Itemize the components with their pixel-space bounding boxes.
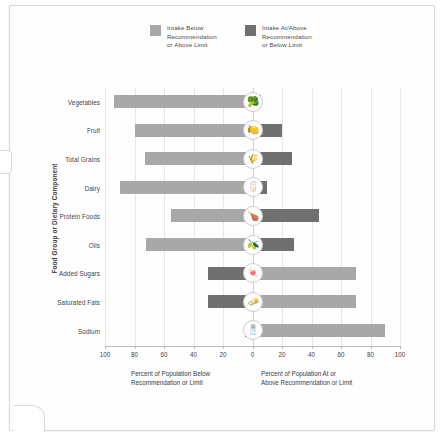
chart-row: 🧂	[105, 317, 400, 346]
x-axis-tick	[400, 346, 401, 349]
bar-below-recommendation	[135, 124, 253, 137]
chart-row: 🫒	[105, 231, 400, 260]
chart-legend: Intake Below Recommendation or Above Lim…	[150, 24, 395, 66]
x-axis-caption-right: Percent of Population At or Above Recomm…	[261, 369, 396, 387]
x-axis-caption-left: Percent of Population Below Recommendati…	[131, 369, 251, 387]
bar-below-recommendation	[171, 209, 252, 222]
x-axis-tick-label: 0	[238, 351, 268, 358]
x-axis-tick-label: 60	[149, 351, 179, 358]
x-axis-tick	[223, 346, 224, 349]
bar-at-above-recommendation	[253, 267, 356, 280]
x-axis-tick	[341, 346, 342, 349]
x-axis-tick	[194, 346, 195, 349]
grains-icon: 🌾	[243, 149, 263, 169]
category-label: Fruit	[30, 117, 100, 146]
legend-label: Intake Below Recommendation or Above Lim…	[167, 24, 217, 50]
chart-row: 🍋	[105, 117, 400, 146]
category-label: Oils	[30, 231, 100, 260]
x-axis-tick	[105, 346, 106, 349]
chart-row: 🍬	[105, 260, 400, 289]
chart-row: 🥦	[105, 88, 400, 117]
category-label-column: VegetablesFruitTotal GrainsDairyProtein …	[30, 88, 100, 346]
legend-swatch-at-above	[245, 25, 256, 36]
plot-area: 🥦🍋🌾🥛🍗🫒🍬🧈🧂	[105, 88, 400, 346]
x-axis-tick	[135, 346, 136, 349]
oils-icon: 🫒	[243, 235, 263, 255]
legend-item: Intake At/Above Recommendation or Below …	[245, 24, 312, 66]
dairy-icon: 🥛	[243, 177, 263, 197]
gridline	[400, 88, 401, 346]
chart-row: 🥛	[105, 174, 400, 203]
legend-label: Intake At/Above Recommendation or Below …	[262, 24, 312, 50]
sodium-icon: 🧂	[243, 320, 263, 340]
x-axis-tick-label: 100	[90, 351, 120, 358]
chart-row: 🧈	[105, 288, 400, 317]
x-axis-tick	[253, 346, 254, 349]
diverging-bar-chart: Intake Below Recommendation or Above Lim…	[0, 0, 444, 437]
chart-row: 🍗	[105, 202, 400, 231]
bar-below-recommendation	[120, 181, 253, 194]
x-axis-tick	[282, 346, 283, 349]
protein-foods-icon: 🍗	[243, 206, 263, 226]
x-axis-tick-label: 40	[297, 351, 327, 358]
broccoli-icon: 🥦	[243, 92, 263, 112]
bar-below-recommendation	[114, 95, 253, 108]
x-axis-tick-label: 80	[356, 351, 386, 358]
legend-swatch-below	[150, 25, 161, 36]
added-sugars-icon: 🍬	[243, 263, 263, 283]
bar-below-recommendation	[145, 152, 253, 165]
category-label: Total Grains	[30, 145, 100, 174]
bar-at-above-recommendation	[253, 324, 386, 337]
fruit-icon: 🍋	[243, 120, 263, 140]
category-label: Added Sugars	[30, 260, 100, 289]
x-axis-tick-label: 40	[179, 351, 209, 358]
chart-row: 🌾	[105, 145, 400, 174]
x-axis-tick	[312, 346, 313, 349]
saturated-fats-icon: 🧈	[243, 292, 263, 312]
x-axis-tick-label: 60	[326, 351, 356, 358]
category-label: Vegetables	[30, 88, 100, 117]
x-axis-tick-label: 20	[208, 351, 238, 358]
category-label: Dairy	[30, 174, 100, 203]
x-axis-tick	[164, 346, 165, 349]
x-axis-tick-label: 100	[385, 351, 415, 358]
x-axis-tick-label: 80	[120, 351, 150, 358]
x-axis-tick-label: 20	[267, 351, 297, 358]
category-label: Protein Foods	[30, 202, 100, 231]
bar-below-recommendation	[146, 238, 252, 251]
legend-item: Intake Below Recommendation or Above Lim…	[150, 24, 217, 66]
category-label: Sodium	[30, 317, 100, 346]
x-axis-tick	[371, 346, 372, 349]
category-label: Saturated Fats	[30, 288, 100, 317]
bar-at-above-recommendation	[253, 295, 356, 308]
